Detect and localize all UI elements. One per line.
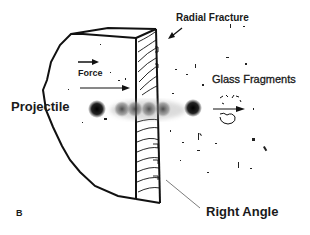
force-label: Force [78, 69, 103, 78]
projectile-end [184, 99, 202, 117]
diagram-canvas [0, 0, 310, 235]
glass-bottom [136, 199, 160, 203]
debris [68, 24, 267, 173]
right-angle-pointer [166, 180, 200, 208]
projectile-path [88, 99, 202, 120]
fragment-arrow [213, 106, 245, 112]
radial-fracture-arrow [168, 28, 182, 39]
panel-label: B [16, 209, 23, 218]
radial-fracture-label: Radial Fracture [176, 13, 249, 23]
upper-fracture-lines [138, 32, 158, 95]
projectile-label: Projectile [11, 100, 70, 113]
projectile-start [88, 100, 106, 118]
right-angle-label: Right Angle [206, 205, 278, 218]
glass-fragments-label: Glass Fragments [212, 74, 296, 85]
lower-fracture-lines [137, 119, 160, 192]
glass-fracture-diagram: Radial Fracture Force Glass Fragments Pr… [0, 0, 310, 235]
